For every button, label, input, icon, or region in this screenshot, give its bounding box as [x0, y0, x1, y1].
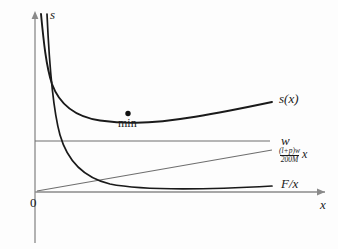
- curve-label-linear-term: (l+p)w 200M x: [278, 147, 307, 164]
- fraction: (l+p)w 200M: [278, 147, 301, 164]
- curve-f-over-x: [47, 14, 272, 189]
- minimum-label: min: [118, 117, 137, 129]
- figure-canvas: [0, 0, 338, 249]
- y-axis-label: s: [50, 8, 55, 21]
- curve-label-f-over-x: F/x: [281, 177, 298, 190]
- curve-linear-term: [37, 150, 272, 191]
- fraction-variable: x: [302, 148, 307, 160]
- origin-label: 0: [30, 196, 37, 209]
- fraction-denominator: 200M: [280, 155, 300, 164]
- y-axis-arrowhead: [32, 11, 39, 19]
- fraction-numerator: (l+p)w: [278, 147, 301, 155]
- curve-s-of-x: [41, 14, 272, 123]
- x-axis-arrowhead: [317, 189, 325, 196]
- x-axis-label: x: [320, 198, 326, 211]
- curve-label-s-of-x: s(x): [279, 92, 299, 105]
